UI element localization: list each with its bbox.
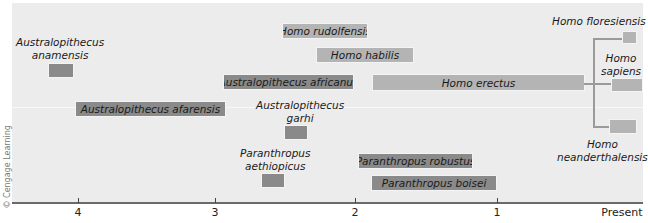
bar-h-neanderthalensis — [609, 119, 637, 134]
bar-h-sapiens — [611, 78, 643, 92]
branch-sapiens — [593, 83, 611, 85]
x-tick-label: 1 — [494, 206, 501, 219]
x-axis — [12, 202, 643, 204]
label-line: Paranthropus — [240, 147, 310, 160]
x-tick — [497, 198, 498, 203]
bar-label: Homo rudolfensis — [282, 25, 368, 37]
bar-h-erectus: Homo erectus — [372, 74, 585, 91]
label-line: Homo floresiensis — [552, 15, 646, 27]
label-line: neanderthalensis — [557, 151, 648, 164]
label-line: anamensis — [16, 49, 104, 62]
x-tick — [355, 198, 356, 203]
x-tick — [215, 198, 216, 203]
label-line: Australopithecus — [256, 99, 344, 112]
x-tick-label: 2 — [352, 206, 359, 219]
label-p-aethiopicus: Paranthropus aethiopicus — [240, 147, 310, 173]
label-h-neanderthalensis: Homo neanderthalensis — [557, 138, 648, 164]
branch-floresiensis — [593, 38, 622, 40]
label-a-garhi: Australopithecus garhi — [256, 99, 344, 125]
label-h-sapiens: Homo sapiens — [601, 52, 641, 78]
bar-p-aethiopicus — [261, 173, 285, 188]
label-h-floresiensis: Homo floresiensis — [552, 15, 646, 28]
label-line: Australopithecus — [16, 36, 104, 49]
label-line: Homo — [601, 52, 641, 65]
x-tick — [78, 198, 79, 203]
bar-h-floresiensis — [622, 31, 637, 44]
label-line: sapiens — [601, 65, 641, 78]
label-a-anamensis: Australopithecus anamensis — [16, 36, 104, 62]
branch-neanderthalensis — [593, 126, 609, 128]
x-tick-label: 3 — [212, 206, 219, 219]
x-tick-label: 4 — [75, 206, 82, 219]
bar-p-boisei: Paranthropus boisei — [371, 175, 497, 191]
label-line: garhi — [256, 112, 344, 125]
bar-label: Australopithecus africanus — [223, 76, 354, 88]
bar-label: Australopithecus afarensis — [81, 103, 220, 115]
bar-a-afarensis: Australopithecus afarensis — [75, 101, 226, 117]
bar-a-anamensis — [48, 63, 74, 78]
bar-label: Homo erectus — [442, 77, 516, 89]
copyright-credit: © Cengage Learning — [3, 129, 12, 209]
bar-label: Paranthropus robustus — [358, 155, 473, 167]
bar-label: Paranthropus boisei — [382, 177, 487, 189]
bar-a-garhi — [284, 125, 308, 140]
bar-label: Homo habilis — [331, 49, 399, 61]
bar-h-rudolfensis: Homo rudolfensis — [282, 23, 368, 39]
x-tick-label-present: Present — [601, 206, 642, 219]
bar-p-robustus: Paranthropus robustus — [358, 153, 473, 169]
label-line: aethiopicus — [240, 160, 310, 173]
bar-a-africanus: Australopithecus africanus — [223, 74, 354, 90]
bar-h-habilis: Homo habilis — [316, 47, 414, 63]
label-line: Homo — [557, 138, 648, 151]
